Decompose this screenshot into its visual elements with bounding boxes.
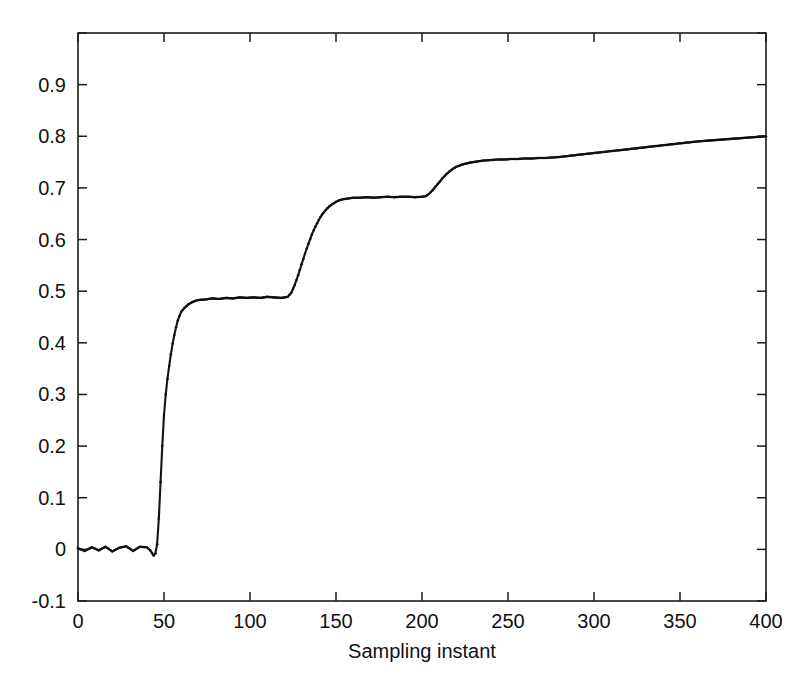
x-tick-label-2: 100 [233,610,266,632]
y-tick-label-4: 0.3 [38,383,66,405]
x-tick-label-4: 200 [405,610,438,632]
y-tick-label-10: 0.9 [38,74,66,96]
y-tick-label-3: 0.2 [38,435,66,457]
data-point [159,481,162,484]
data-point [309,238,312,241]
data-point [177,319,180,322]
data-point [443,175,446,178]
y-tick-label-6: 0.5 [38,280,66,302]
data-point [319,216,322,219]
figure-container: 050100150200250300350400 -0.100.10.20.30… [0,0,811,684]
data-point [765,135,768,138]
figure-background [0,0,811,684]
x-tick-label-8: 400 [749,610,782,632]
data-point [428,193,431,196]
data-point [182,309,185,312]
y-tick-label-1: 0 [55,538,66,560]
data-point [304,252,307,255]
data-point [436,183,439,186]
data-point [307,242,310,245]
data-point [163,414,166,417]
data-point [154,552,157,555]
x-axis-title: Sampling instant [348,640,496,662]
data-point [173,334,176,337]
data-point [152,554,155,557]
data-point [170,353,173,356]
y-tick-label-5: 0.4 [38,332,66,354]
data-point [300,263,303,266]
data-point [297,274,300,277]
data-point [161,445,164,448]
data-point [438,181,441,184]
data-point [299,269,302,272]
y-tick-label-0: -0.1 [32,590,66,612]
data-point [175,326,178,329]
data-point [156,543,159,546]
data-point [324,209,327,212]
data-point [314,225,317,228]
x-tick-label-1: 50 [153,610,175,632]
data-point [318,219,321,222]
data-point [151,552,154,555]
data-point [323,211,326,214]
data-point [149,549,152,552]
data-point [288,294,291,297]
data-point [292,288,295,291]
x-tick-label-6: 300 [577,610,610,632]
data-point [158,517,161,520]
data-point [306,247,309,250]
data-point [178,315,181,318]
data-point [316,222,319,225]
data-point [321,213,324,216]
y-tick-label-9: 0.8 [38,125,66,147]
data-point [295,279,298,282]
data-point [180,311,183,314]
data-point [168,365,171,368]
plot-svg: 050100150200250300350400 -0.100.10.20.30… [0,0,811,684]
x-tick-label-7: 350 [663,610,696,632]
data-point [312,229,315,232]
data-point [441,177,444,180]
x-tick-label-0: 0 [72,610,83,632]
data-point [431,189,434,192]
data-point [164,393,167,396]
data-point [287,296,290,299]
y-tick-label-8: 0.7 [38,177,66,199]
data-point [433,187,436,190]
y-tick-label-7: 0.6 [38,229,66,251]
data-point [326,207,329,210]
y-tick-label-2: 0.1 [38,487,66,509]
data-point [293,284,296,287]
data-point [171,343,174,346]
data-point [166,378,169,381]
data-point [290,291,293,294]
x-tick-label-5: 250 [491,610,524,632]
data-point [429,191,432,194]
x-tick-label-3: 150 [319,610,352,632]
data-point [311,233,314,236]
data-point [435,185,438,188]
data-point [440,179,443,182]
data-point [302,258,305,261]
